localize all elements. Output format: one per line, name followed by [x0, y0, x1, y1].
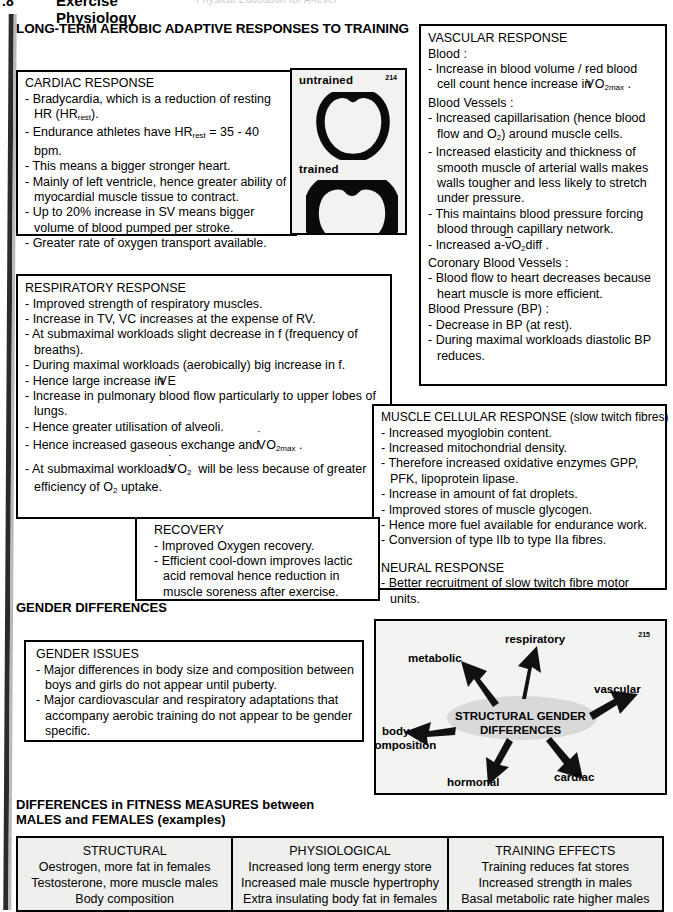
list-item: Hence greater utilisation of alveoli.: [25, 420, 384, 435]
list-item: Improved strength of respiratory muscles…: [25, 297, 384, 312]
table-column-structural: STRUCTURAL Oestrogen, more fat in female…: [18, 838, 231, 910]
list-item: Hence more fuel available for endurance …: [381, 518, 659, 533]
list-item: Increased myoglobin content.: [381, 426, 659, 441]
diagram-node-respiratory: respiratory: [505, 633, 565, 645]
figure-number: 214: [385, 74, 397, 81]
list-item: Improved Oxygen recovery.: [154, 539, 372, 554]
vascular-response-title: VASCULAR RESPONSE: [428, 31, 659, 47]
list-item: Increase in TV, VC increases at the expe…: [25, 312, 384, 327]
respiratory-response-box: RESPIRATORY RESPONSE Improved strength o…: [16, 274, 392, 519]
list-item: Increased mitochondrial density.: [381, 441, 659, 456]
vascular-bp-list: Decrease in BP (at rest). During maximal…: [428, 318, 659, 364]
list-item: During maximal workloads (aerobically) b…: [25, 358, 384, 373]
muscle-cellular-response-title: MUSCLE CELLULAR RESPONSE (slow twitch fi…: [381, 410, 659, 426]
vascular-response-box: VASCULAR RESPONSE Blood : Increase in bl…: [419, 24, 667, 386]
list-item: Hence large increase in VE: [25, 374, 384, 389]
table-column-training-effects: TRAINING EFFECTS Training reduces fat st…: [447, 838, 662, 910]
column-header: STRUCTURAL: [18, 843, 231, 859]
table-cell: Basal metabolic rate higher males: [449, 891, 662, 907]
main-heading: LONG-TERM AEROBIC ADAPTIVE RESPONSES TO …: [16, 21, 409, 36]
list-item: Better recruitment of slow twitch fibre …: [381, 576, 659, 607]
vascular-coronary-list: Blood flow to heart decreases because he…: [428, 271, 659, 302]
cardiac-response-box: CARDIAC RESPONSE Bradycardia, which is a…: [16, 70, 297, 236]
list-item: Endurance athletes have HRrest = 35 - 40…: [25, 125, 289, 159]
list-item: Decrease in BP (at rest).: [428, 318, 659, 333]
muscle-cellular-response-box: MUSCLE CELLULAR RESPONSE (slow twitch fi…: [372, 404, 667, 590]
vascular-blood-list: Increase in blood volume / red blood cel…: [428, 62, 659, 96]
gender-issues-list: Major differences in body size and compo…: [36, 663, 356, 740]
running-head: Physical Education for A-level: [196, 0, 337, 5]
diagram-arrows: [376, 621, 667, 795]
table-cell: Body composition: [18, 891, 231, 907]
trained-heart-icon: [306, 180, 398, 235]
table-column-physiological: PHYSIOLOGICAL Increased long term energy…: [231, 838, 446, 910]
list-item: Increased a-vO2diff .: [428, 238, 659, 256]
list-item: This means a bigger stronger heart.: [25, 159, 289, 174]
recovery-title: RECOVERY: [154, 523, 372, 539]
list-item: Bradycardia, which is a reduction of res…: [25, 92, 289, 126]
vascular-group-heading-blood-vessels: Blood Vessels :: [428, 96, 659, 112]
list-item: Up to 20% increase in SV means bigger vo…: [25, 205, 289, 236]
list-item: Conversion of type IIb to type IIa fibre…: [381, 533, 659, 548]
fitness-measures-heading-line2: MALES and FEMALES (examples): [16, 812, 314, 827]
list-item: Increase in blood volume / red blood cel…: [428, 62, 659, 96]
list-item: Increase in pulmonary blood flow particu…: [25, 389, 384, 420]
diagram-node-body: body: [382, 725, 409, 737]
list-item: This maintains blood pressure forcing bl…: [428, 207, 659, 238]
fitness-measures-table: STRUCTURAL Oestrogen, more fat in female…: [16, 836, 664, 912]
gender-issues-title: GENDER ISSUES: [36, 647, 356, 663]
untrained-heart-icon: [316, 92, 390, 160]
list-item: During maximal workloads diastolic BP re…: [428, 333, 659, 364]
page-title-line1: Exercise: [56, 0, 136, 9]
column-header: TRAINING EFFECTS: [449, 843, 662, 859]
heart-comparison-figure: untrained 214 trained: [290, 68, 407, 235]
table-cell: Oestrogen, more fat in females: [18, 859, 231, 875]
neural-response-list: Better recruitment of slow twitch fibre …: [381, 576, 659, 607]
respiratory-response-list: Improved strength of respiratory muscles…: [25, 297, 384, 499]
gender-issues-box: GENDER ISSUES Major differences in body …: [24, 640, 364, 742]
column-header: PHYSIOLOGICAL: [233, 843, 446, 859]
table-cell: Increased strength in males: [449, 875, 662, 891]
list-item: Major differences in body size and compo…: [36, 663, 356, 694]
cardiac-response-title: CARDIAC RESPONSE: [25, 76, 289, 92]
diagram-node-cardiac: cardiac: [554, 771, 594, 783]
vascular-group-heading-blood: Blood :: [428, 47, 659, 63]
fitness-measures-heading-line1: DIFFERENCES in FITNESS MEASURES between: [16, 797, 314, 812]
figure-label-untrained: untrained: [299, 74, 353, 86]
table-cell: Increased male muscle hypertrophy: [233, 875, 446, 891]
list-item: Increased elasticity and thickness of sm…: [428, 145, 659, 207]
cardiac-response-list: Bradycardia, which is a reduction of res…: [25, 92, 289, 252]
vascular-group-heading-coronary: Coronary Blood Vessels :: [428, 256, 659, 272]
list-item: Blood flow to heart decreases because he…: [428, 271, 659, 302]
structural-gender-differences-diagram: STRUCTURAL GENDER DIFFERENCES respirator…: [374, 619, 667, 795]
list-item: Increase in amount of fat droplets.: [381, 487, 659, 502]
diagram-center-line2: DIFFERENCES: [376, 723, 665, 737]
vascular-group-heading-bp: Blood Pressure (BP) :: [428, 302, 659, 318]
muscle-cellular-response-list: Increased myoglobin content. Increased m…: [381, 426, 659, 549]
recovery-list: Improved Oxygen recovery. Efficient cool…: [154, 539, 372, 601]
diagram-node-metabolic: metabolic: [408, 652, 462, 664]
list-item: Efficient cool-down improves lactic acid…: [154, 554, 372, 600]
fitness-measures-heading: DIFFERENCES in FITNESS MEASURES between …: [16, 797, 314, 827]
diagram-node-vascular: vascular: [594, 683, 641, 695]
document-page: .8 Exercise Physiology Physical Educatio…: [0, 0, 673, 912]
list-item: At submaximal workloads slight decrease …: [25, 327, 384, 358]
list-item: Therefore increased oxidative enzymes GP…: [381, 456, 659, 487]
diagram-center-line1: STRUCTURAL GENDER: [376, 709, 665, 723]
figure-label-trained: trained: [299, 163, 339, 175]
list-item: Greater rate of oxygen transport availab…: [25, 236, 289, 251]
respiratory-response-title: RESPIRATORY RESPONSE: [25, 281, 384, 297]
diagram-node-composition: composition: [374, 739, 436, 751]
vascular-blood-vessels-list: Increased capillarisation (hence blood f…: [428, 111, 659, 256]
neural-response-title: NEURAL RESPONSE: [381, 561, 659, 577]
list-item: At submaximal workloads VO2 will be less…: [25, 457, 384, 499]
list-item: Increased capillarisation (hence blood f…: [428, 111, 659, 145]
gender-differences-heading: GENDER DIFFERENCES: [16, 600, 167, 615]
diagram-center-label: STRUCTURAL GENDER DIFFERENCES: [376, 709, 665, 737]
table-cell: Training reduces fat stores: [449, 859, 662, 875]
diagram-figure-number: 215: [638, 631, 650, 638]
list-item: Major cardiovascular and respiratory ada…: [36, 693, 356, 739]
list-item: Improved stores of muscle glycogen.: [381, 503, 659, 518]
table-cell: Testosterone, more muscle males: [18, 875, 231, 891]
diagram-node-hormonal: hormonal: [447, 776, 499, 788]
